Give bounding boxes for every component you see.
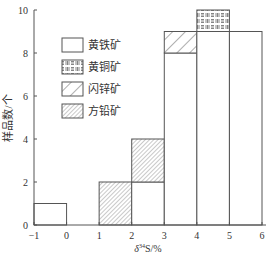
legend-label: 方铅矿 <box>88 104 121 117</box>
x-tick-label: 6 <box>260 230 265 241</box>
x-tick-label: −1 <box>29 230 40 241</box>
y-tick-label: 6 <box>23 91 28 102</box>
histogram-chart: −101234560246810 黄铁矿黄铜矿闪锌矿方铅矿 样品数/个 δ34S… <box>0 0 277 257</box>
bar-segment <box>132 182 165 225</box>
y-tick-label: 4 <box>23 134 28 145</box>
x-tick-label: 1 <box>97 230 102 241</box>
bar-segment <box>164 32 197 54</box>
x-tick-label: 3 <box>162 230 167 241</box>
y-tick-label: 2 <box>23 177 28 188</box>
y-tick-label: 0 <box>23 220 28 231</box>
legend-label: 黄铜矿 <box>88 60 121 73</box>
x-tick-label: 2 <box>129 230 134 241</box>
bar-segment <box>99 182 132 225</box>
y-tick-label: 8 <box>23 48 28 59</box>
x-tick-label: 5 <box>227 230 232 241</box>
chart-canvas: −101234560246810 黄铁矿黄铜矿闪锌矿方铅矿 样品数/个 δ34S… <box>0 0 277 257</box>
legend-label: 黄铁矿 <box>88 38 121 51</box>
y-axis-label: 样品数/个 <box>1 94 14 141</box>
legend-swatch <box>62 104 83 118</box>
bar-segment <box>132 139 165 182</box>
bar-segment <box>229 32 262 226</box>
bar-segment <box>197 32 230 226</box>
bar-segment <box>34 204 67 226</box>
legend: 黄铁矿黄铜矿闪锌矿方铅矿 <box>62 38 121 118</box>
y-tick-label: 10 <box>18 5 28 16</box>
legend-swatch <box>62 38 83 52</box>
legend-swatch <box>62 60 83 74</box>
x-axis-label: δ34S/% <box>134 243 161 254</box>
legend-swatch <box>62 82 83 96</box>
x-tick-label: 4 <box>194 230 199 241</box>
bar-segment <box>197 10 230 32</box>
legend-label: 闪锌矿 <box>88 82 121 95</box>
bar-segment <box>164 53 197 225</box>
x-tick-label: 0 <box>64 230 69 241</box>
